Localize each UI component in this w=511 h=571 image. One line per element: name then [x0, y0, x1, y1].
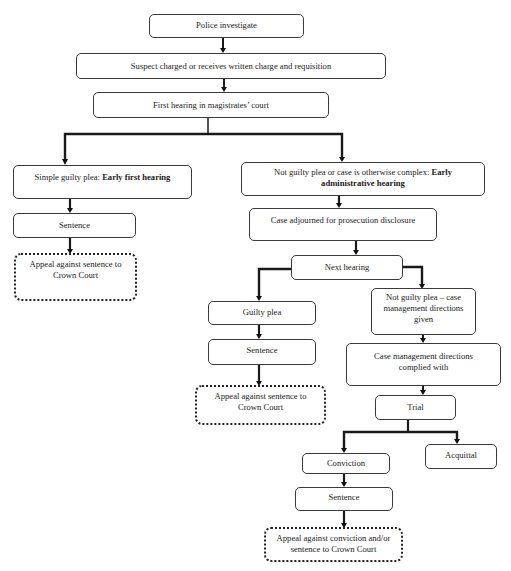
node-sentence-left: Sentence	[13, 213, 136, 238]
node-label: Case management directions complied with	[374, 351, 473, 372]
node-appeal-left: Appeal against sentence to Crown Court	[14, 253, 137, 301]
node-label: Next hearing	[325, 262, 370, 272]
node-not-guilty-complex: Not guilty plea or case is otherwise com…	[241, 162, 485, 196]
node-label-bold: Early first hearing	[102, 172, 170, 182]
node-label: Conviction	[327, 458, 365, 468]
node-guilty-plea: Guilty plea	[208, 301, 316, 325]
node-label: Police investigate	[196, 20, 257, 30]
node-label: Not guilty plea or case is otherwise com…	[274, 167, 432, 177]
node-appeal-bottom: Appeal against conviction and/or sentenc…	[264, 527, 403, 562]
node-police-investigate: Police investigate	[149, 14, 304, 38]
node-next-hearing: Next hearing	[291, 255, 403, 280]
node-label: Not guilty plea – case management direct…	[384, 292, 464, 324]
node-cmd-complied: Case management directions complied with	[346, 343, 501, 386]
node-suspect-charged: Suspect charged or receives written char…	[76, 53, 386, 79]
node-label: Case adjourned for prosecution disclosur…	[271, 215, 416, 225]
node-case-adjourned: Case adjourned for prosecution disclosur…	[249, 208, 437, 241]
node-label: Simple guilty plea:	[35, 172, 103, 182]
node-label: Acquittal	[445, 450, 477, 460]
node-first-hearing: First hearing in magistrates’ court	[93, 92, 329, 118]
node-sentence-bottom: Sentence	[295, 487, 393, 511]
node-label: Appeal against conviction and/or sentenc…	[277, 533, 391, 554]
node-sentence-mid: Sentence	[208, 339, 316, 365]
node-label: Sentence	[246, 345, 277, 355]
node-label: Sentence	[59, 220, 90, 230]
node-trial: Trial	[375, 395, 456, 420]
node-simple-guilty-plea: Simple guilty plea: Early first hearing	[13, 165, 192, 199]
node-label: Appeal against sentence to Crown Court	[30, 259, 122, 280]
node-label: First hearing in magistrates’ court	[153, 100, 269, 110]
node-label: Sentence	[328, 492, 359, 502]
node-label: Guilty plea	[243, 307, 281, 317]
node-not-guilty-cmd: Not guilty plea – case management direct…	[371, 288, 476, 335]
node-appeal-mid: Appeal against sentence to Crown Court	[195, 385, 326, 425]
node-label: Suspect charged or receives written char…	[131, 61, 331, 71]
node-label: Trial	[407, 402, 423, 412]
node-conviction: Conviction	[302, 453, 390, 474]
node-label: Appeal against sentence to Crown Court	[215, 391, 307, 412]
node-acquittal: Acquittal	[425, 444, 497, 469]
